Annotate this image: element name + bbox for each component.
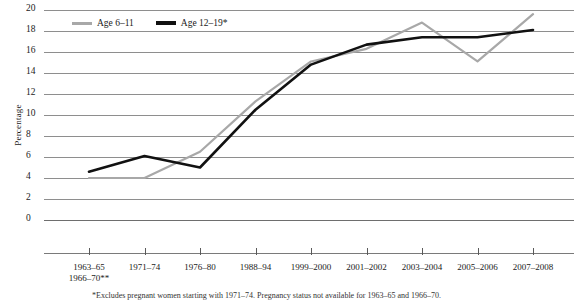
x-axis-tick-mark (145, 248, 146, 255)
x-axis-tick-mark (200, 248, 201, 255)
legend-swatch-icon (156, 21, 176, 25)
legend-item-age-6-11[interactable]: Age 6–11 (72, 18, 134, 28)
chart-container: Percentage 02468101214161820 1963–651966… (0, 0, 580, 300)
x-axis-tick-mark (367, 248, 368, 255)
legend-label: Age 6–11 (97, 18, 134, 28)
legend-swatch-icon (72, 22, 92, 25)
series-line (89, 30, 533, 172)
x-axis-tick-mark (478, 248, 479, 255)
legend-label: Age 12–19* (181, 18, 228, 28)
legend: Age 6–11 Age 12–19* (72, 18, 228, 28)
x-axis-tick-mark (533, 248, 534, 255)
footnote: *Excludes pregnant women starting with 1… (92, 291, 441, 300)
x-axis-line (44, 253, 574, 254)
x-axis-tick-mark (422, 248, 423, 255)
x-axis-tick-label: 2007–2008 (493, 262, 573, 273)
legend-item-age-12-19[interactable]: Age 12–19* (156, 18, 228, 28)
x-axis-tick-mark (256, 248, 257, 255)
x-axis-tick-mark (311, 248, 312, 255)
series-line (89, 14, 533, 178)
x-axis-tick-mark (89, 248, 90, 255)
plot-area (0, 0, 580, 300)
